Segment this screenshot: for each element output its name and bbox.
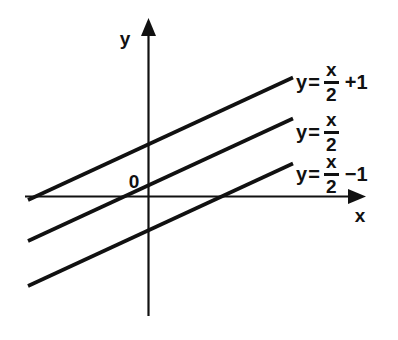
equation-label-line1: y = x 2 +1 <box>296 60 368 105</box>
y-axis-group <box>141 18 156 316</box>
fraction-denominator: 2 <box>325 177 338 197</box>
equation-lhs: y <box>296 122 307 142</box>
fraction-numerator: x <box>325 152 338 172</box>
fraction-x-over-2: x 2 <box>324 152 339 197</box>
fraction-x-over-2: x 2 <box>324 110 339 155</box>
equation-lhs: y <box>296 72 307 92</box>
x-axis-label: x <box>355 205 366 226</box>
figure-canvas: y x 0 y = x 2 +1 y = x 2 y = x <box>0 0 398 340</box>
fraction-x-over-2: x 2 <box>324 60 339 105</box>
equation-tail: +1 <box>345 72 368 92</box>
fraction-numerator: x <box>325 110 338 130</box>
y-axis-arrowhead <box>141 18 156 36</box>
fraction-numerator: x <box>325 60 338 80</box>
fraction-denominator: 2 <box>325 85 338 105</box>
equation-lhs: y <box>296 164 307 184</box>
equals-sign: = <box>308 164 320 184</box>
equation-tail: −1 <box>345 164 368 184</box>
y-axis-label: y <box>120 28 131 49</box>
equals-sign: = <box>308 72 320 92</box>
equals-sign: = <box>308 122 320 142</box>
equation-label-line2: y = x 2 <box>296 110 345 155</box>
equation-label-line3: y = x 2 −1 <box>296 152 368 197</box>
